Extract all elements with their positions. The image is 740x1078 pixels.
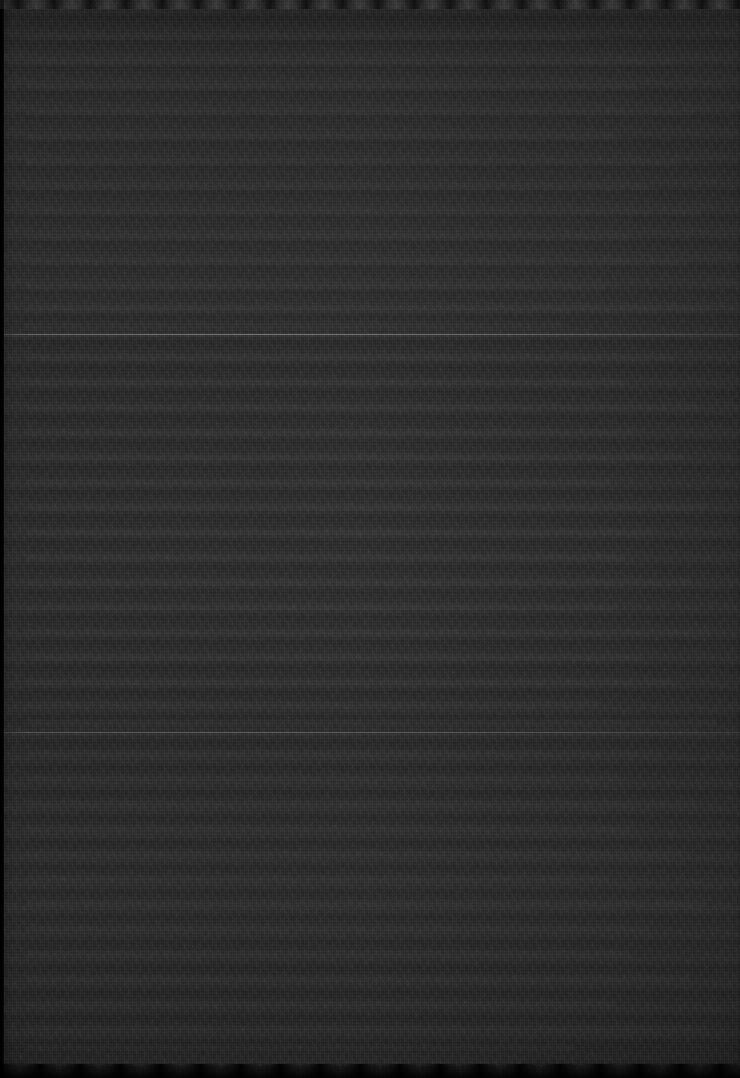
content-line [26, 209, 702, 216]
content-line [26, 379, 624, 386]
content-line [26, 679, 676, 686]
content-line [26, 579, 692, 586]
content-line [26, 1060, 522, 1067]
content-line [26, 184, 648, 191]
content-line [26, 1000, 616, 1007]
content-line [26, 719, 716, 726]
content-line [26, 529, 654, 536]
content-line [26, 109, 694, 116]
content-line [26, 354, 672, 361]
content-line [26, 701, 600, 708]
content-line [26, 479, 612, 486]
content-line [26, 504, 706, 511]
content-line [26, 1025, 708, 1032]
content-line [26, 775, 622, 782]
content-line [26, 59, 674, 66]
content-line [26, 654, 642, 661]
content-line [26, 975, 690, 982]
content-line [26, 554, 626, 561]
content-line [26, 284, 606, 291]
content-line [26, 429, 636, 436]
content-line [26, 134, 616, 141]
content-line [26, 950, 628, 957]
content-line [26, 234, 630, 241]
content-line [26, 750, 660, 757]
section-middle [0, 336, 740, 733]
content-line [26, 604, 618, 611]
content-line [26, 850, 682, 857]
content-line [26, 305, 714, 312]
screenshot-canvas [0, 0, 740, 1078]
section-bottom [0, 734, 740, 1078]
content-line [26, 875, 610, 882]
content-line [26, 259, 688, 266]
content-line [26, 900, 704, 907]
content-line [26, 322, 564, 329]
section-top [0, 0, 740, 335]
content-line [26, 404, 698, 411]
content-line [26, 454, 684, 461]
content-line [26, 1044, 574, 1051]
content-line [26, 34, 586, 41]
content-line [26, 629, 710, 636]
content-line [26, 825, 634, 832]
content-line [26, 800, 696, 807]
content-line [26, 84, 638, 91]
content-line [26, 159, 680, 166]
content-line [26, 925, 650, 932]
